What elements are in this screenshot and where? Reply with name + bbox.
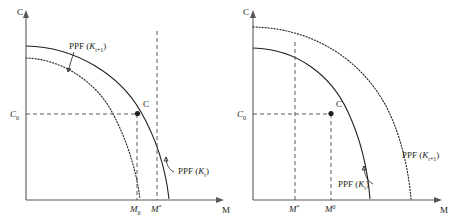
x-axis-arrowhead bbox=[434, 197, 442, 203]
curve-label-ppf-kt-left: PPF (Kt) bbox=[164, 157, 209, 178]
svg-text:PPF (Kt): PPF (Kt) bbox=[338, 179, 369, 191]
y-axis-label-right: C bbox=[243, 7, 249, 17]
y-axis-arrowhead bbox=[23, 10, 29, 18]
y-tick-c0-right: C0 bbox=[237, 109, 246, 121]
ppf-figure: C C M C0 M0 M* PPF (Kt+1) PPF (Kt) bbox=[0, 0, 462, 224]
svg-text:PPF (Kt+1): PPF (Kt+1) bbox=[69, 41, 106, 53]
svg-text:PPF (Kt+1): PPF (Kt+1) bbox=[402, 150, 439, 162]
y-axis-label-left: C bbox=[17, 7, 23, 17]
curve-label-ppf-kt1-left: PPF (Kt+1) bbox=[67, 41, 106, 72]
x-axis-label-right: M bbox=[440, 205, 448, 215]
curve-ppf-kt1-left bbox=[26, 58, 140, 199]
point-c-left-label: C bbox=[143, 99, 149, 109]
panel-left: C C M C0 M0 M* PPF (Kt+1) PPF (Kt) bbox=[0, 0, 231, 224]
curve-ppf-kt-left bbox=[26, 46, 169, 199]
x-tick-m0-right: M0 bbox=[324, 204, 336, 214]
axes-right bbox=[250, 10, 442, 203]
x-axis-arrowhead bbox=[216, 197, 224, 203]
panel-right: C C M C0 M* M0 PPF (Kt+1) PPF (Kt) bbox=[231, 0, 462, 224]
x-axis-label-left: M bbox=[222, 205, 230, 215]
y-axis-arrowhead bbox=[250, 10, 256, 18]
curve-label-ppf-kt-right: PPF (Kt) bbox=[338, 166, 373, 191]
x-tick-mstar-left: M* bbox=[150, 204, 162, 214]
curve-label-ppf-kt1-right: PPF (Kt+1) bbox=[402, 150, 439, 162]
point-c-right: C bbox=[328, 99, 342, 116]
x-tick-mstar-right: M* bbox=[288, 204, 300, 214]
guides-right bbox=[253, 42, 331, 200]
point-c-right-label: C bbox=[336, 99, 342, 109]
y-tick-c0-left: C0 bbox=[10, 109, 19, 121]
curve-ppf-kt-right bbox=[253, 48, 370, 199]
svg-text:PPF (Kt): PPF (Kt) bbox=[178, 166, 209, 178]
x-tick-m0-left: M0 bbox=[129, 204, 141, 216]
